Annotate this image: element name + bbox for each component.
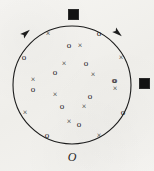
cross-marker: × [31, 76, 36, 84]
cross-marker: × [119, 54, 124, 62]
filled-square-marker [68, 9, 79, 20]
cross-marker: × [91, 71, 96, 79]
circle-marker: o [77, 120, 82, 129]
cross-marker: × [113, 85, 118, 93]
circle-marker: o [88, 92, 93, 101]
vector-drawing-layer [0, 0, 154, 171]
circle-marker: o [53, 68, 58, 77]
cross-marker: × [82, 103, 87, 111]
cross-marker: × [62, 60, 67, 68]
cross-marker: × [23, 109, 28, 117]
circle-marker: o [45, 131, 50, 140]
cross-marker: × [78, 42, 83, 50]
circle-marker: o [84, 59, 89, 68]
circle-marker: o [22, 53, 27, 62]
circle-marker: o [60, 102, 65, 111]
arrowhead-group [20, 27, 124, 38]
cross-marker: × [97, 132, 102, 140]
figure-canvas: ooooooooooooo×××××××××××× O [0, 0, 154, 171]
circle-marker: o [97, 29, 102, 38]
cross-marker: × [67, 118, 72, 126]
cross-marker: × [46, 30, 51, 38]
cross-marker: × [53, 91, 58, 99]
circle-marker: o [67, 41, 72, 50]
circle-marker: o [121, 108, 126, 117]
circle-marker: o [31, 85, 36, 94]
filled-square-marker [139, 78, 150, 89]
origin-label: O [68, 150, 77, 165]
filled-arrowhead-marker [20, 27, 32, 38]
filled-arrowhead-marker [112, 27, 124, 38]
